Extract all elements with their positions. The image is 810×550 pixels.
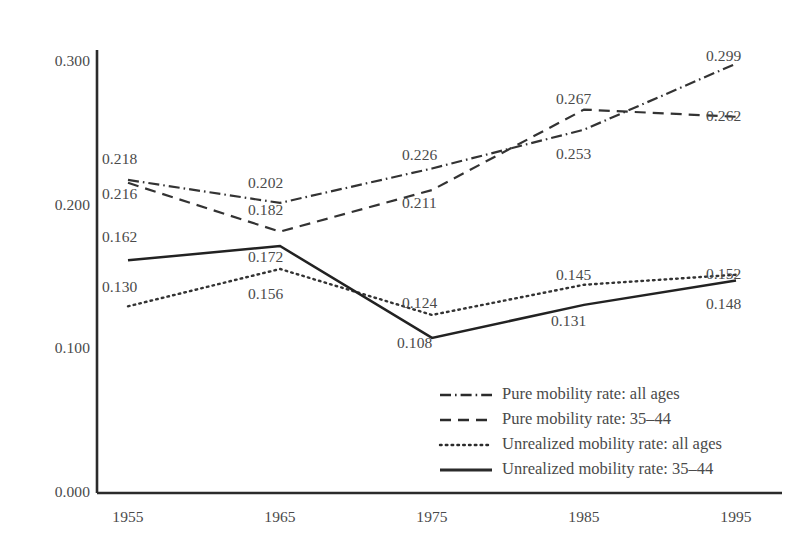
legend-swatch-solid-icon xyxy=(438,457,494,482)
series-line-pure_all_ages xyxy=(128,64,736,203)
y-axis-tick-3: 0.000 xyxy=(28,483,90,501)
data-point-label: 0.202 xyxy=(248,174,283,192)
x-axis-tick-4: 1995 xyxy=(701,508,771,526)
legend-label: Pure mobility rate: all ages xyxy=(502,384,680,404)
data-point-label: 0.182 xyxy=(248,201,283,219)
legend-swatch-dash-dot-icon xyxy=(438,382,494,407)
data-point-label: 0.156 xyxy=(248,285,283,303)
series-line-unrealized_35_44 xyxy=(128,246,736,338)
series-line-pure_35_44 xyxy=(128,110,736,232)
y-axis-tick-0: 0.300 xyxy=(28,52,90,70)
data-point-label: 0.216 xyxy=(102,185,137,203)
legend-item-3[interactable]: Unrealized mobility rate: 35–44 xyxy=(438,457,788,482)
x-axis-tick-0: 1955 xyxy=(93,508,163,526)
y-axis-tick-1: 0.200 xyxy=(28,196,90,214)
data-point-label: 0.172 xyxy=(248,248,283,266)
x-axis-tick-2: 1975 xyxy=(397,508,467,526)
legend-item-1[interactable]: Pure mobility rate: 35–44 xyxy=(438,407,788,432)
chart-legend: Pure mobility rate: all agesPure mobilit… xyxy=(438,382,788,482)
y-axis-tick-2: 0.100 xyxy=(28,339,90,357)
data-point-label: 0.262 xyxy=(706,107,741,125)
chart-container: 0.3000.2000.1000.000 1955196519751985199… xyxy=(0,0,810,550)
data-point-label: 0.162 xyxy=(102,228,137,246)
data-point-label: 0.130 xyxy=(102,278,137,296)
data-point-label: 0.131 xyxy=(551,312,586,330)
data-point-label: 0.124 xyxy=(402,294,437,312)
legend-item-2[interactable]: Unrealized mobility rate: all ages xyxy=(438,432,788,457)
legend-item-0[interactable]: Pure mobility rate: all ages xyxy=(438,382,788,407)
legend-swatch-dotted-icon xyxy=(438,432,494,457)
data-point-label: 0.145 xyxy=(556,266,591,284)
data-point-label: 0.152 xyxy=(706,265,741,283)
legend-label: Unrealized mobility rate: 35–44 xyxy=(502,459,713,479)
legend-label: Pure mobility rate: 35–44 xyxy=(502,409,671,429)
data-point-label: 0.148 xyxy=(706,295,741,313)
data-point-label: 0.108 xyxy=(397,334,432,352)
x-axis-tick-3: 1985 xyxy=(549,508,619,526)
x-axis-tick-1: 1965 xyxy=(245,508,315,526)
data-point-label: 0.267 xyxy=(556,90,591,108)
data-point-label: 0.226 xyxy=(402,146,437,164)
data-point-label: 0.211 xyxy=(402,194,437,212)
data-point-label: 0.218 xyxy=(102,150,137,168)
legend-swatch-dashed-icon xyxy=(438,407,494,432)
data-point-label: 0.299 xyxy=(706,47,741,65)
legend-label: Unrealized mobility rate: all ages xyxy=(502,434,722,454)
data-point-label: 0.253 xyxy=(556,145,591,163)
